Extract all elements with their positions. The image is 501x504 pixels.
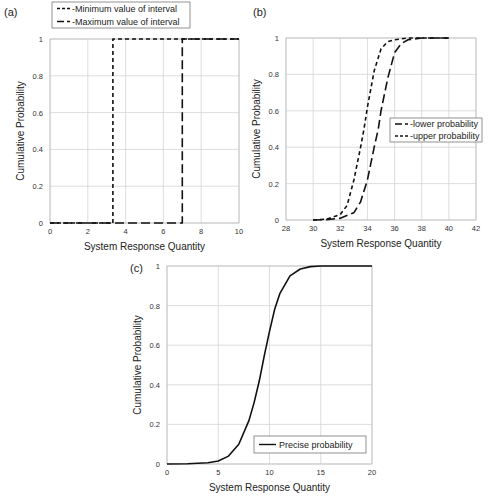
chart-panel-a: 024681000.20.40.60.81System Response Qua… xyxy=(4,2,243,252)
y-tick-label: 0.8 xyxy=(33,72,43,81)
legend-entry-label: -upper probability xyxy=(410,131,480,141)
x-axis-title: System Response Quantity xyxy=(209,482,330,493)
x-tick-label: 10 xyxy=(265,468,273,477)
legend: Precise probability xyxy=(254,436,366,453)
panel-label: (a) xyxy=(4,6,17,18)
x-tick-label: 30 xyxy=(309,224,317,233)
y-tick-label: 0 xyxy=(39,219,43,228)
legend: -Minimum value of interval-Maximum value… xyxy=(52,2,190,28)
y-tick-label: 1 xyxy=(275,34,279,43)
y-tick-label: 0.2 xyxy=(33,182,43,191)
y-tick-label: 0.6 xyxy=(150,341,160,350)
grid xyxy=(167,266,372,464)
x-axis-title: System Response Quantity xyxy=(84,241,205,252)
y-tick-label: 0.4 xyxy=(150,381,160,390)
x-tick-label: 8 xyxy=(199,227,203,236)
x-tick-label: 32 xyxy=(336,224,344,233)
x-tick-label: 2 xyxy=(86,227,90,236)
y-tick-label: 0.4 xyxy=(269,143,279,152)
x-tick-label: 20 xyxy=(368,468,376,477)
x-tick-label: 42 xyxy=(472,224,480,233)
y-tick-label: 0.2 xyxy=(150,420,160,429)
x-tick-label: 15 xyxy=(317,468,325,477)
chart-panel-c: 0510152000.20.40.60.81System Response Qu… xyxy=(130,262,376,493)
y-tick-label: 0.6 xyxy=(33,109,43,118)
y-tick-label: 0.4 xyxy=(33,145,43,154)
chart-panel-b: 283032343638404200.20.40.60.81System Res… xyxy=(251,6,482,249)
y-axis-title: Cumulative Probability xyxy=(251,79,262,179)
y-tick-label: 0 xyxy=(275,216,279,225)
x-tick-label: 28 xyxy=(282,224,290,233)
x-tick-label: 6 xyxy=(161,227,165,236)
x-tick-label: 36 xyxy=(390,224,398,233)
grid xyxy=(50,39,239,223)
series-line xyxy=(50,39,239,223)
y-tick-label: 1 xyxy=(156,262,160,271)
y-tick-label: 0 xyxy=(156,460,160,469)
series-line xyxy=(50,39,239,223)
x-tick-label: 38 xyxy=(418,224,426,233)
panel-label: (b) xyxy=(253,6,266,18)
y-axis-title: Cumulative Probability xyxy=(15,81,26,181)
x-tick-label: 0 xyxy=(165,468,169,477)
x-tick-label: 4 xyxy=(124,227,128,236)
legend-entry-label: Precise probability xyxy=(279,440,353,450)
y-axis-title: Cumulative Probability xyxy=(132,315,143,415)
legend: -lower probability-upper probability xyxy=(390,118,482,142)
x-axis-title: System Response Quantity xyxy=(320,238,441,249)
x-tick-label: 40 xyxy=(445,224,453,233)
x-tick-label: 34 xyxy=(363,224,371,233)
x-tick-label: 0 xyxy=(48,227,52,236)
plot-frame xyxy=(50,39,239,223)
y-tick-label: 0.8 xyxy=(269,70,279,79)
y-tick-label: 0.6 xyxy=(269,107,279,116)
x-tick-label: 10 xyxy=(235,227,243,236)
y-tick-label: 0.2 xyxy=(269,180,279,189)
legend-entry-label: -Maximum value of interval xyxy=(72,17,180,27)
legend-entry-label: -lower probability xyxy=(410,119,479,129)
figure: 024681000.20.40.60.81System Response Qua… xyxy=(0,0,501,504)
y-tick-label: 0.8 xyxy=(150,302,160,311)
y-tick-label: 1 xyxy=(39,35,43,44)
panel-label: (c) xyxy=(130,262,143,274)
x-tick-label: 5 xyxy=(216,468,220,477)
legend-entry-label: -Minimum value of interval xyxy=(72,4,177,14)
